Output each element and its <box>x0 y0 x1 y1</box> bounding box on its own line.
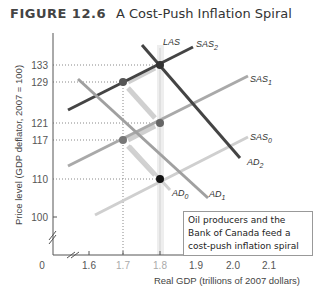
svg-text:110: 110 <box>32 174 48 185</box>
svg-text:117: 117 <box>32 135 48 146</box>
equilibrium-point <box>119 136 127 144</box>
svg-text:121: 121 <box>31 118 48 129</box>
callout-line: Oil producers and the <box>188 214 308 227</box>
svg-text:1.9: 1.9 <box>189 260 203 271</box>
svg-text:129: 129 <box>31 77 48 88</box>
equilibrium-point <box>156 61 164 69</box>
annotation-callout: Oil producers and the Bank of Canada fee… <box>183 211 313 256</box>
equilibrium-point <box>156 119 164 127</box>
y-tick-labels: 133 129 121 117 110 100 <box>31 60 48 223</box>
callout-line: Bank of Canada feed a <box>188 227 308 240</box>
svg-text:SAS2: SAS2 <box>196 39 218 51</box>
ad2-curve <box>142 45 240 158</box>
svg-text:LAS: LAS <box>163 37 180 47</box>
svg-text:SAS1: SAS1 <box>250 74 272 86</box>
y-axis-title: Price level (GDP deflator, 2007 = 100) <box>13 65 24 225</box>
sas2-curve <box>68 47 193 110</box>
svg-text:2.1: 2.1 <box>262 260 276 271</box>
svg-text:2.0: 2.0 <box>226 260 240 271</box>
svg-text:1.6: 1.6 <box>82 260 96 271</box>
svg-text:AD1: AD1 <box>208 189 226 201</box>
equilibrium-point <box>119 78 127 86</box>
curve-labels: LAS SAS2 SAS1 SAS0 AD2 AD1 AD0 <box>163 37 272 201</box>
svg-text:100: 100 <box>31 212 48 223</box>
svg-text:AD2: AD2 <box>246 157 264 169</box>
svg-text:AD0: AD0 <box>171 188 189 200</box>
svg-text:0: 0 <box>39 260 45 271</box>
x-axis-title: Real GDP (trillions of 2007 dollars) <box>154 275 300 286</box>
equilibrium-point <box>156 175 164 183</box>
svg-text:1.8: 1.8 <box>153 260 167 271</box>
svg-text:1.7: 1.7 <box>116 260 130 271</box>
svg-text:133: 133 <box>31 60 48 71</box>
x-tick-labels: 0 1.6 1.7 1.8 1.9 2.0 2.1 <box>39 260 276 271</box>
sas0-curve <box>95 137 248 215</box>
callout-line: cost-push inflation spiral <box>188 240 308 253</box>
svg-text:SAS0: SAS0 <box>250 132 272 144</box>
